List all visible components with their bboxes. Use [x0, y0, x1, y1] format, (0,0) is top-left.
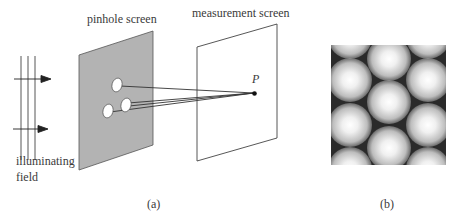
field-label: field — [16, 171, 38, 183]
pinhole-screen-label: pinhole screen — [87, 13, 157, 25]
point-p-label: P — [252, 73, 259, 85]
interference-pattern — [331, 45, 446, 165]
wavefront-lines — [21, 56, 35, 160]
caption-b: (b) — [380, 198, 394, 210]
measurement-screen-label: measurement screen — [192, 7, 290, 19]
arrow-icon — [13, 76, 51, 133]
illuminating-label: illuminating — [16, 155, 75, 167]
pinhole-screen — [79, 31, 153, 170]
caption-a: (a) — [147, 198, 160, 210]
point-p-marker — [252, 91, 257, 96]
